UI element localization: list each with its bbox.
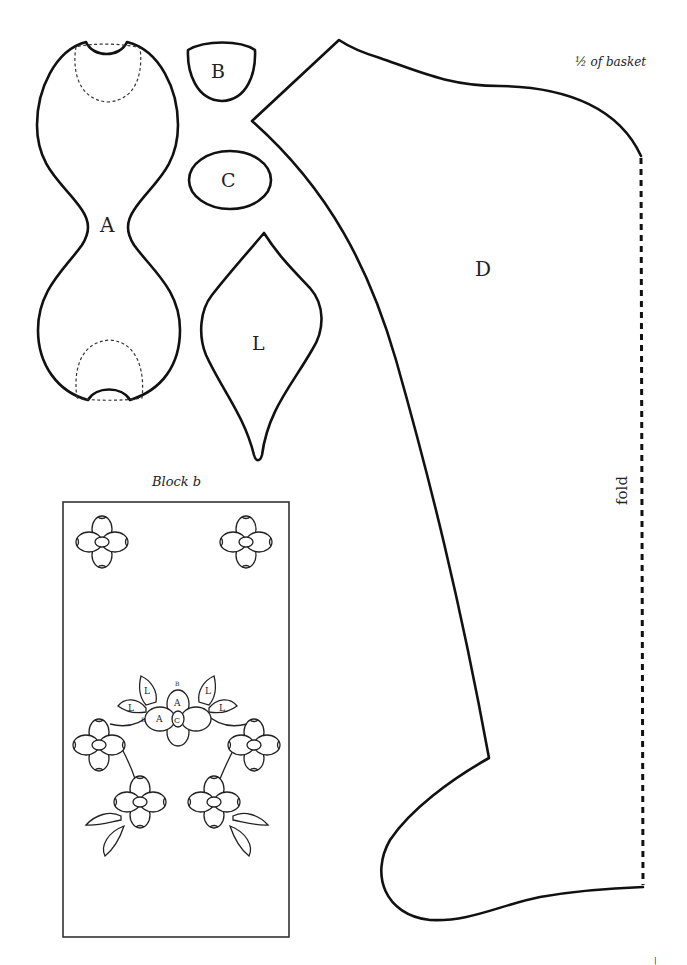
piece-l: L [201, 233, 321, 460]
side-flower-right [228, 719, 280, 771]
block-b: Block b [63, 474, 289, 937]
piece-d-outline [252, 40, 643, 920]
piece-a-label: A [99, 213, 115, 237]
block-leaf [233, 813, 268, 825]
block-label-leaf: L [205, 686, 211, 696]
fold-line [641, 158, 643, 885]
block-label-a: A [173, 698, 181, 708]
block-title: Block b [151, 474, 201, 489]
block-label-leaf: L [219, 703, 225, 713]
corner-flower-right [220, 516, 272, 568]
page-mark: | [654, 956, 657, 965]
block-label-b: B [175, 680, 180, 687]
piece-l-label: L [252, 332, 265, 354]
block-label-leaf: L [144, 686, 150, 696]
block-leaf [86, 813, 121, 825]
piece-d-label: D [475, 257, 491, 281]
piece-b-label: B [211, 60, 225, 82]
side-flower-left [73, 719, 125, 771]
pattern-page: A B C L D fold ½ of basket Block b [0, 0, 687, 965]
piece-c-label: C [221, 169, 236, 191]
block-leaf [230, 826, 250, 856]
block-label-a: A [155, 714, 163, 724]
piece-a-bottom-seam [76, 340, 143, 400]
piece-a: A [37, 42, 180, 400]
piece-c: C [189, 151, 271, 209]
block-leaf [104, 826, 124, 856]
piece-d: D fold ½ of basket [252, 40, 646, 920]
fold-label: fold [613, 476, 631, 505]
piece-b: B [188, 43, 255, 102]
half-of-basket-note: ½ of basket [575, 55, 646, 69]
lower-flower-left [114, 776, 166, 828]
corner-flower-left [76, 516, 128, 568]
block-petal [181, 707, 211, 731]
lower-flower-right [188, 776, 240, 828]
block-label-c: C [174, 716, 180, 725]
block-label-b: B [141, 716, 146, 723]
block-label-leaf: L [128, 703, 134, 713]
